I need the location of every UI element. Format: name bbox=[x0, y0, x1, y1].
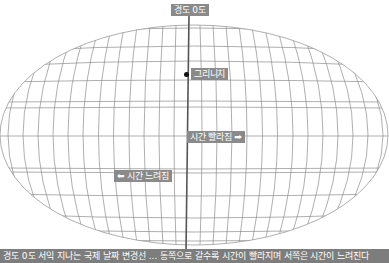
time-faster-label: 시간 빨라짐 ➡ bbox=[187, 131, 245, 143]
time-slower-label: ⬅ 시간 느려짐 bbox=[114, 170, 172, 182]
caption-bar: 경도 0도 서익 지나는 국제 날짜 변경선 ... 동쪽으로 갈수록 시간이 … bbox=[0, 249, 389, 263]
greenwich-dot bbox=[184, 72, 189, 77]
greenwich-label: 그리니치 bbox=[191, 68, 228, 80]
meridian-zero-label: 경도 0도 bbox=[171, 4, 209, 16]
